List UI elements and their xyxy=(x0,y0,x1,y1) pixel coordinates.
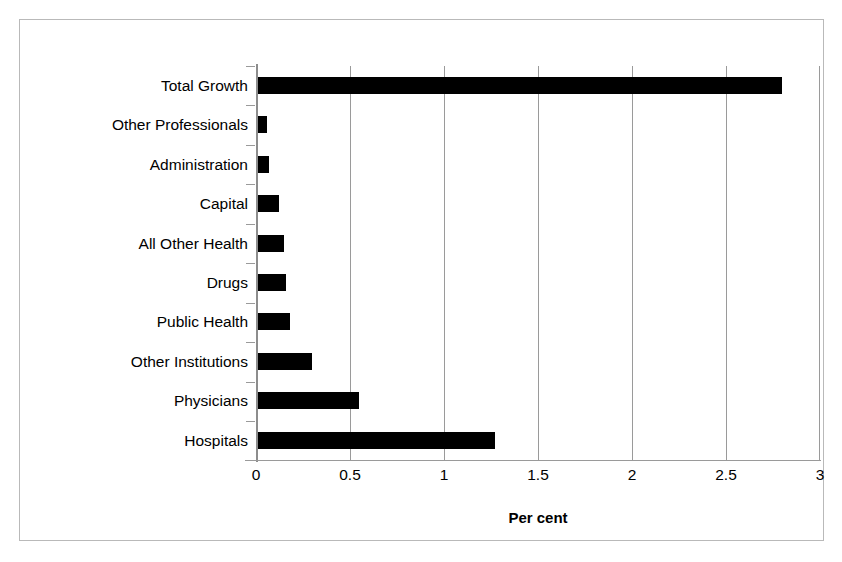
bar-other-institutions xyxy=(256,353,312,370)
xtick-label-0: 0 xyxy=(226,466,286,484)
bar-physicians xyxy=(256,392,359,409)
category-label-total-growth: Total Growth xyxy=(38,66,248,105)
xtick-label-0.5: 0.5 xyxy=(320,466,380,484)
xtick-label-2.5: 2.5 xyxy=(696,466,756,484)
plot-area xyxy=(256,66,820,460)
xtick-label-1: 1 xyxy=(414,466,474,484)
xtick-label-2: 2 xyxy=(602,466,662,484)
category-label-hospitals: Hospitals xyxy=(38,421,248,460)
category-label-physicians: Physicians xyxy=(38,381,248,420)
category-label-capital: Capital xyxy=(38,184,248,223)
category-label-group: Total Growth Other Professionals Adminis… xyxy=(34,66,248,460)
category-label-drugs: Drugs xyxy=(38,263,248,302)
bar-row xyxy=(256,66,820,105)
bar-hospitals xyxy=(256,432,495,449)
bar-all-other-health xyxy=(256,235,284,252)
category-label-other-professionals: Other Professionals xyxy=(38,105,248,144)
category-label-administration: Administration xyxy=(38,145,248,184)
bar-row xyxy=(256,302,820,341)
x-axis-title: Per cent xyxy=(256,509,820,526)
bar-public-health xyxy=(256,313,290,330)
chart-frame: Total Growth Other Professionals Adminis… xyxy=(19,19,824,541)
bar-row xyxy=(256,105,820,144)
bar-row xyxy=(256,263,820,302)
bar-total-growth xyxy=(256,77,782,94)
bar-row xyxy=(256,342,820,381)
category-label-other-institutions: Other Institutions xyxy=(38,342,248,381)
bar-row xyxy=(256,184,820,223)
xtick-label-3: 3 xyxy=(790,466,842,484)
bar-capital xyxy=(256,195,279,212)
chart-figure: Total Growth Other Professionals Adminis… xyxy=(0,0,842,562)
xtick-label-1.5: 1.5 xyxy=(508,466,568,484)
category-axis-line xyxy=(245,460,821,461)
category-label-all-other-health: All Other Health xyxy=(38,224,248,263)
category-tick xyxy=(246,460,255,461)
bar-row xyxy=(256,145,820,184)
bar-row xyxy=(256,224,820,263)
value-axis-line xyxy=(256,64,258,462)
bar-row xyxy=(256,421,820,460)
bar-row xyxy=(256,381,820,420)
bar-drugs xyxy=(256,274,286,291)
category-label-public-health: Public Health xyxy=(38,302,248,341)
